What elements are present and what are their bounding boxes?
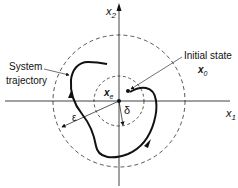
epsilon-label: ε: [72, 112, 77, 123]
initial-state-leader: [131, 57, 182, 89]
xe-label: xe: [103, 87, 114, 100]
x2-axis-label: x2: [105, 5, 117, 20]
x2-axis-arrow-icon: [117, 3, 122, 11]
delta-label: δ: [124, 104, 130, 116]
delta-radius-arrow: [119, 101, 123, 125]
x1-axis-label: x1: [225, 107, 236, 122]
initial-state-point: [126, 89, 130, 93]
x0-label: x0: [197, 64, 208, 77]
epsilon-radius-arrow: [62, 101, 119, 127]
system-label-line1: System: [9, 61, 42, 72]
trajectory-leader: [44, 69, 69, 75]
stability-diagram: x2 x1 System trajectory Initial state x0…: [0, 0, 238, 188]
system-label-line2: trajectory: [6, 75, 47, 86]
initial-state-label: Initial state: [184, 50, 232, 61]
